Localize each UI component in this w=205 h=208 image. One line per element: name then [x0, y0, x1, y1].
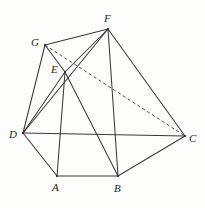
vertex-label-a: A [52, 182, 59, 193]
edge-e-a [57, 72, 65, 176]
edge-f-c [108, 29, 185, 136]
edge-f-b [108, 29, 118, 176]
vertex-point-e [64, 71, 66, 73]
vertex-label-f: F [104, 13, 111, 24]
vertex-label-g: G [31, 37, 39, 48]
edge-g-c [45, 45, 185, 136]
geometry-figure: ABCDEFG [0, 0, 205, 208]
vertex-point-d [22, 132, 24, 134]
edge-layer [23, 29, 185, 176]
vertex-label-e: E [51, 64, 58, 75]
edge-d-a [23, 133, 57, 176]
edge-g-f [45, 29, 108, 45]
vertex-label-b: B [114, 183, 121, 194]
vertex-point-c [184, 135, 186, 137]
vertex-point-g [44, 44, 46, 46]
edge-f-e [65, 29, 108, 72]
edge-b-c [118, 136, 185, 176]
vertex-label-d: D [9, 129, 17, 140]
vertex-point-a [56, 175, 58, 177]
vertex-point-f [107, 28, 109, 30]
edge-d-c [23, 133, 185, 136]
vertex-point-b [117, 175, 119, 177]
vertex-label-c: C [189, 133, 196, 144]
geometry-canvas [0, 0, 205, 208]
edge-e-d [23, 72, 65, 133]
